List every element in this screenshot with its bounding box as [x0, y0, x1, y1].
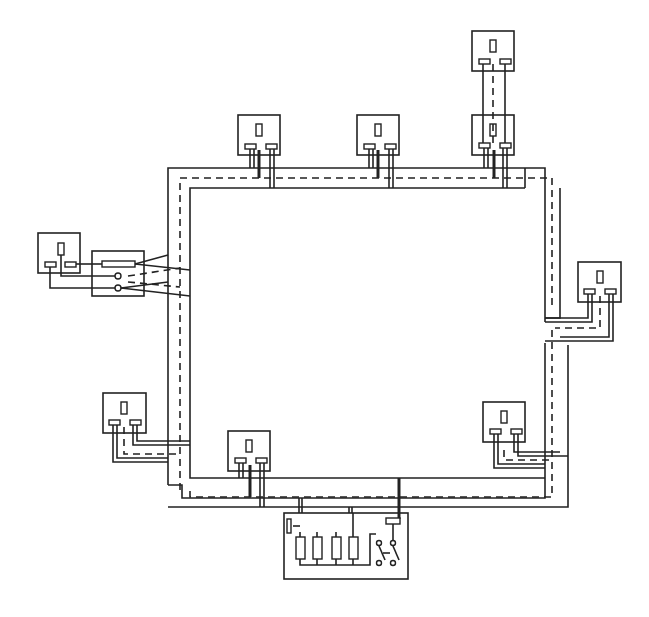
fused-connection-unit [92, 251, 190, 296]
ring-cable-inner [168, 168, 560, 498]
socket-right [545, 262, 621, 341]
ring-circuit-diagram: Ring main circuit wiring diagram [0, 0, 649, 617]
socket-bottom-right [483, 402, 568, 468]
socket-bottom-left [103, 393, 190, 462]
terminal-neutral [115, 285, 121, 291]
terminal-live [115, 273, 121, 279]
earth-block-icon [287, 519, 291, 533]
socket-top-left [238, 115, 280, 188]
consumer-unit [284, 478, 408, 579]
socket-bottom-middle [228, 431, 270, 507]
fuse-icon [102, 261, 135, 267]
socket-top-middle [357, 115, 399, 188]
